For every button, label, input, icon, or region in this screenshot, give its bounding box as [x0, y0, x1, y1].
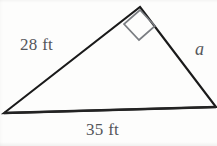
- side-label-left: 28 ft: [20, 36, 53, 53]
- side-label-right: a: [195, 40, 204, 58]
- triangle-shape: [4, 7, 216, 113]
- side-label-bottom: 35 ft: [86, 121, 119, 138]
- right-angle-marker-icon: [124, 10, 155, 40]
- right-triangle-figure: 28 ft a 35 ft: [0, 0, 217, 146]
- triangle-base-edge: [4, 107, 216, 113]
